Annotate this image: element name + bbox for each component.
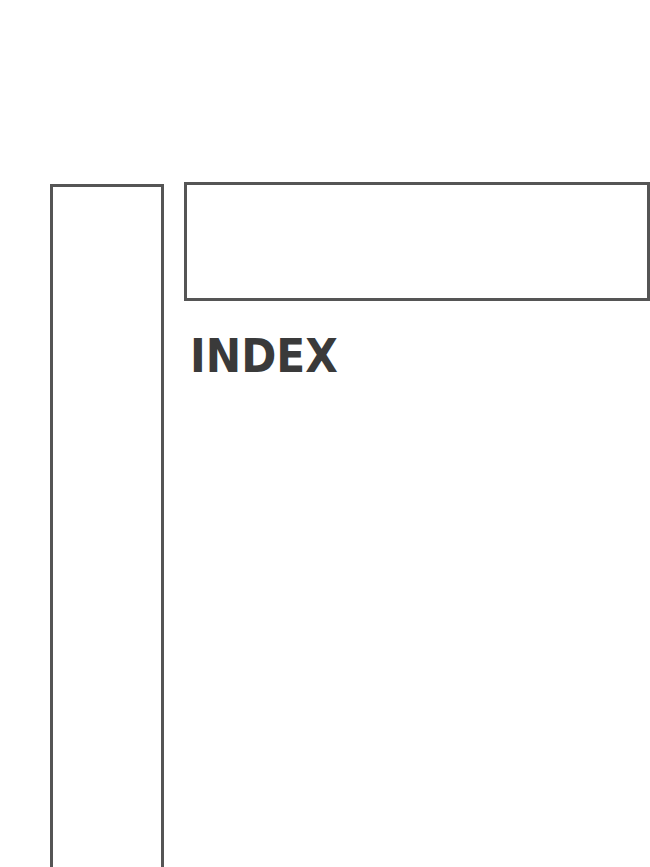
- left-column-frame: [50, 184, 164, 867]
- page-title: INDEX: [190, 333, 338, 379]
- header-box: [184, 182, 650, 301]
